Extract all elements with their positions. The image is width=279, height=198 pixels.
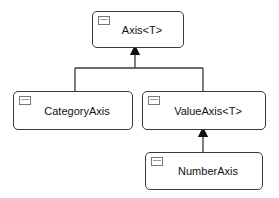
class-window-icon <box>98 16 110 25</box>
node-number-axis[interactable]: NumberAxis <box>145 152 263 190</box>
edge-axis-children <box>75 50 203 91</box>
node-label: ValueAxis<T> <box>166 105 242 117</box>
class-window-icon <box>148 96 160 105</box>
class-window-icon <box>151 157 163 166</box>
node-label: Axis<T> <box>114 24 162 36</box>
class-diagram: Axis<T> CategoryAxis ValueAxis<T> Number… <box>0 0 279 198</box>
node-category-axis[interactable]: CategoryAxis <box>13 91 133 130</box>
node-axis[interactable]: Axis<T> <box>92 11 184 48</box>
class-window-icon <box>19 96 31 105</box>
node-label: CategoryAxis <box>36 105 109 117</box>
node-label: NumberAxis <box>170 165 238 177</box>
node-value-axis[interactable]: ValueAxis<T> <box>142 91 266 130</box>
